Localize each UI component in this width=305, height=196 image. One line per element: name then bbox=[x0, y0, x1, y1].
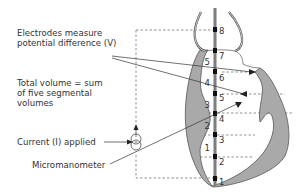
segment-number-4: 4 bbox=[205, 78, 210, 88]
segment-number-3: 3 bbox=[205, 100, 210, 110]
electrode-number-6: 6 bbox=[219, 73, 224, 83]
electrode-7 bbox=[213, 48, 217, 53]
segment-number-1: 1 bbox=[205, 143, 210, 153]
electrode-number-5: 5 bbox=[219, 93, 224, 103]
electrode-number-7: 7 bbox=[219, 51, 224, 61]
arrowhead-current-up bbox=[134, 124, 139, 130]
electrode-numbers: 1 2 3 4 5 6 7 8 bbox=[219, 26, 224, 187]
electrode-5 bbox=[213, 91, 217, 96]
segment-number-5: 5 bbox=[205, 57, 210, 67]
electrode-6 bbox=[213, 69, 217, 74]
electrode-number-8: 8 bbox=[219, 26, 224, 36]
electrode-8 bbox=[213, 27, 217, 32]
electrode-number-2: 2 bbox=[219, 157, 224, 167]
segment-number-2: 2 bbox=[205, 121, 210, 131]
electrode-1 bbox=[213, 176, 217, 181]
electrode-number-1: 1 bbox=[219, 177, 224, 187]
segment-numbers: 1 2 3 4 5 bbox=[205, 57, 210, 153]
arrowhead-6 bbox=[249, 69, 256, 75]
arrowhead-micromanometer bbox=[235, 102, 242, 108]
free-wall bbox=[212, 68, 289, 187]
electrode-number-3: 3 bbox=[219, 135, 224, 145]
arrowhead-5 bbox=[240, 91, 247, 97]
electrode-number-4: 4 bbox=[219, 114, 224, 124]
micromanometer-arrow bbox=[110, 103, 239, 164]
left-ventricle bbox=[185, 12, 289, 187]
electrode-3 bbox=[213, 132, 217, 137]
left-atrium-outline bbox=[195, 12, 205, 51]
conductance-catheter-diagram: 1 2 3 4 5 6 7 8 1 2 3 4 5 bbox=[0, 0, 305, 196]
electrode-2 bbox=[213, 154, 217, 159]
